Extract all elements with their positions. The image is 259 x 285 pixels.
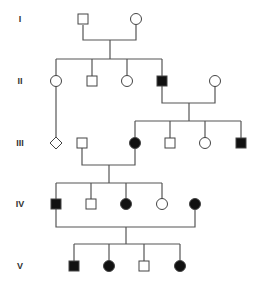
individual-III-1-unaffected-diamond-icon: [50, 137, 62, 149]
individual-IV-1-affected-square-icon: [51, 199, 61, 209]
pedigree-symbols: [50, 14, 246, 272]
individual-I-2-unaffected-circle-icon: [131, 14, 142, 25]
individual-II-2-unaffected-square-icon: [87, 76, 97, 86]
generation-label-III: III: [10, 138, 30, 148]
individual-II-5-unaffected-circle-icon: [210, 76, 221, 87]
individual-II-4-affected-square-icon: [157, 76, 167, 86]
pedigree-diagram: [0, 0, 259, 285]
individual-IV-5-affected-circle-icon: [190, 199, 201, 210]
mating-IV1-IV5: [56, 209, 195, 227]
individual-I-1-unaffected-square-icon: [78, 14, 88, 24]
generation-label-IV: IV: [10, 199, 30, 209]
generation-label-II: II: [10, 76, 30, 86]
mating-III2-III3: [82, 148, 135, 165]
generation-label-V: V: [10, 261, 30, 271]
individual-IV-2-unaffected-square-icon: [86, 199, 96, 209]
individual-V-3-unaffected-square-icon: [139, 261, 149, 271]
individual-V-2-affected-circle-icon: [104, 261, 115, 272]
individual-III-5-unaffected-circle-icon: [200, 138, 211, 149]
individual-V-4-affected-circle-icon: [175, 261, 186, 272]
generation-label-I: I: [10, 14, 30, 24]
individual-II-3-unaffected-circle-icon: [122, 76, 133, 87]
individual-III-2-unaffected-square-icon: [77, 138, 87, 148]
individual-IV-3-affected-circle-icon: [121, 199, 132, 210]
mating-II4-II5: [162, 86, 215, 103]
individual-II-1-unaffected-circle-icon: [51, 76, 62, 87]
individual-III-6-affected-square-icon: [236, 138, 246, 148]
individual-IV-4-unaffected-circle-icon: [157, 199, 168, 210]
mating-I1-I2: [83, 25, 136, 40]
individual-V-1-affected-square-icon: [69, 261, 79, 271]
individual-III-4-unaffected-square-icon: [165, 138, 175, 148]
individual-III-3-affected-circle-icon: [130, 138, 141, 149]
